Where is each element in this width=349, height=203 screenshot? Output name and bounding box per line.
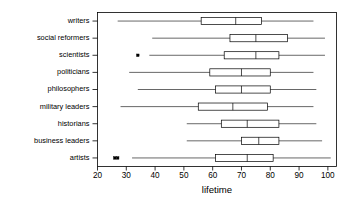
box-scientists — [224, 52, 279, 59]
category-label-historians: historians — [58, 119, 90, 128]
outlier-point — [113, 157, 116, 160]
x-tick-label-80: 80 — [266, 171, 276, 180]
box-plot-chart: writerssocial reformersscientistspolitic… — [0, 0, 349, 203]
x-tick-label-100: 100 — [321, 171, 335, 180]
x-tick-label-90: 90 — [295, 171, 305, 180]
box-historians — [221, 120, 279, 127]
category-label-philosophers: philosophers — [48, 84, 90, 93]
x-tick-label-60: 60 — [208, 171, 218, 180]
box-artists — [216, 154, 274, 161]
box-social-reformers — [230, 35, 288, 42]
x-axis-title: lifetime — [202, 184, 232, 195]
category-label-business-leaders: business leaders — [34, 136, 90, 145]
x-tick-label-70: 70 — [237, 171, 247, 180]
category-label-military-leaders: military leaders — [40, 102, 90, 111]
x-tick-label-50: 50 — [179, 171, 189, 180]
x-tick-label-30: 30 — [122, 171, 132, 180]
box-politicians — [210, 69, 270, 76]
category-label-politicians: politicians — [57, 67, 90, 76]
box-business-leaders — [241, 137, 278, 144]
category-label-writers: writers — [67, 16, 90, 25]
outlier-point — [116, 157, 119, 160]
box-philosophers — [216, 86, 271, 93]
plot-canvas: writerssocial reformersscientistspolitic… — [0, 0, 349, 203]
box-writers — [201, 17, 261, 24]
category-label-artists: artists — [70, 153, 90, 162]
category-label-social-reformers: social reformers — [37, 33, 90, 42]
x-tick-label-20: 20 — [93, 171, 103, 180]
outlier-point — [137, 54, 140, 57]
category-label-scientists: scientists — [59, 50, 90, 59]
x-tick-label-40: 40 — [151, 171, 161, 180]
